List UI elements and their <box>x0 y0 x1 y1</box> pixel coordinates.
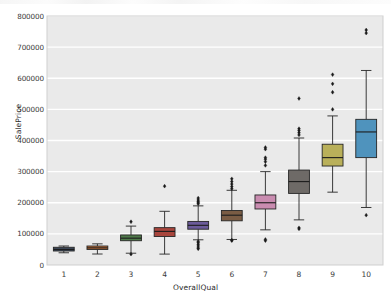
y-axis-label: SalePrice <box>14 82 23 162</box>
boxplot-canvas <box>0 0 391 298</box>
x-tick-2: 2 <box>82 270 112 279</box>
x-tick-10: 10 <box>351 270 381 279</box>
x-tick-8: 8 <box>284 270 314 279</box>
y-tick-300000: 300000 <box>0 167 44 176</box>
y-tick-100000: 100000 <box>0 229 44 238</box>
y-tick-800000: 800000 <box>0 12 44 21</box>
boxplot-figure: 0100000200000300000400000500000600000700… <box>0 0 391 298</box>
box-body <box>255 195 276 209</box>
x-tick-3: 3 <box>116 270 146 279</box>
y-tick-200000: 200000 <box>0 198 44 207</box>
y-tick-700000: 700000 <box>0 43 44 52</box>
x-tick-4: 4 <box>150 270 180 279</box>
x-tick-7: 7 <box>250 270 280 279</box>
x-tick-1: 1 <box>49 270 79 279</box>
y-tick-0: 0 <box>0 261 44 270</box>
x-tick-9: 9 <box>318 270 348 279</box>
box-body <box>154 228 175 237</box>
x-tick-5: 5 <box>183 270 213 279</box>
x-tick-6: 6 <box>217 270 247 279</box>
box-body <box>356 119 377 157</box>
box-body <box>322 144 343 166</box>
x-axis-label: OverallQual <box>0 283 391 292</box>
